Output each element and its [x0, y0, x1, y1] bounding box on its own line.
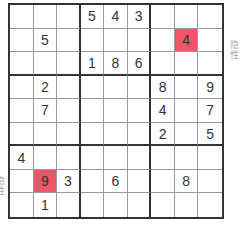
sudoku-cell[interactable] [175, 52, 199, 76]
sudoku-cell[interactable] [57, 76, 81, 100]
sudoku-cell[interactable] [198, 170, 222, 194]
sudoku-cell[interactable]: 1 [34, 193, 58, 217]
sudoku-cell[interactable]: 8 [104, 52, 128, 76]
sudoku-cell[interactable] [104, 99, 128, 123]
sudoku-cell[interactable] [34, 123, 58, 147]
sudoku-cell[interactable] [151, 52, 175, 76]
sudoku-cell[interactable] [198, 29, 222, 53]
sudoku-cell[interactable] [128, 193, 152, 217]
sudoku-cell[interactable] [104, 29, 128, 53]
sudoku-cell[interactable] [198, 146, 222, 170]
sudoku-cell[interactable]: 7 [34, 99, 58, 123]
sudoku-cell[interactable] [10, 193, 34, 217]
sudoku-cell[interactable] [104, 146, 128, 170]
sudoku-cell[interactable] [34, 146, 58, 170]
sudoku-cell[interactable] [57, 99, 81, 123]
sudoku-cell[interactable] [81, 193, 105, 217]
sudoku-cell[interactable] [151, 170, 175, 194]
sudoku-cell[interactable] [175, 99, 199, 123]
sudoku-grid: 5435418628974725493681 [8, 3, 224, 219]
sudoku-cell[interactable] [198, 193, 222, 217]
sudoku-cell[interactable]: 4 [10, 146, 34, 170]
sudoku-cell[interactable]: 9 [34, 170, 58, 194]
sudoku-cell[interactable]: 5 [34, 29, 58, 53]
sudoku-cell[interactable] [175, 5, 199, 29]
sudoku-cell[interactable]: 1 [81, 52, 105, 76]
sudoku-cell[interactable]: 3 [57, 170, 81, 194]
sudoku-cell[interactable] [57, 193, 81, 217]
sudoku-cell[interactable] [57, 29, 81, 53]
sudoku-cell[interactable] [10, 29, 34, 53]
hidden-label-right: 隐性 [229, 40, 239, 60]
sudoku-cell[interactable]: 5 [198, 123, 222, 147]
sudoku-cell[interactable] [81, 76, 105, 100]
sudoku-cell[interactable] [104, 193, 128, 217]
sudoku-cell[interactable] [128, 170, 152, 194]
sudoku-cell[interactable]: 4 [151, 99, 175, 123]
sudoku-cell[interactable] [81, 29, 105, 53]
sudoku-cell[interactable] [151, 5, 175, 29]
sudoku-cell[interactable]: 8 [175, 170, 199, 194]
sudoku-cell[interactable] [34, 52, 58, 76]
sudoku-cell[interactable] [10, 5, 34, 29]
sudoku-cell[interactable] [151, 29, 175, 53]
sudoku-cell[interactable]: 3 [128, 5, 152, 29]
sudoku-cell[interactable] [10, 52, 34, 76]
sudoku-cell[interactable]: 6 [104, 170, 128, 194]
sudoku-cell[interactable] [81, 123, 105, 147]
sudoku-cell[interactable] [10, 76, 34, 100]
sudoku-cell[interactable]: 4 [175, 29, 199, 53]
hidden-label-left: 隐性 [0, 176, 5, 196]
sudoku-cell[interactable] [151, 146, 175, 170]
sudoku-cell[interactable]: 9 [198, 76, 222, 100]
sudoku-cell[interactable] [81, 146, 105, 170]
sudoku-cell[interactable] [151, 193, 175, 217]
sudoku-cell[interactable] [104, 123, 128, 147]
sudoku-cell[interactable]: 7 [198, 99, 222, 123]
sudoku-cell[interactable] [175, 193, 199, 217]
sudoku-cell[interactable]: 6 [128, 52, 152, 76]
sudoku-cell[interactable] [128, 29, 152, 53]
sudoku-cell[interactable] [10, 123, 34, 147]
sudoku-cell[interactable]: 5 [81, 5, 105, 29]
sudoku-cell[interactable] [198, 52, 222, 76]
sudoku-cell[interactable] [81, 170, 105, 194]
sudoku-cell[interactable] [10, 170, 34, 194]
sudoku-cell[interactable] [128, 99, 152, 123]
sudoku-cell[interactable] [175, 123, 199, 147]
sudoku-cell[interactable] [81, 99, 105, 123]
sudoku-cell[interactable] [57, 146, 81, 170]
sudoku-cell[interactable] [57, 52, 81, 76]
sudoku-cell[interactable] [175, 146, 199, 170]
sudoku-cell[interactable]: 2 [151, 123, 175, 147]
sudoku-cell[interactable] [175, 76, 199, 100]
sudoku-cell[interactable] [128, 76, 152, 100]
sudoku-cell[interactable]: 2 [34, 76, 58, 100]
sudoku-cell[interactable] [10, 99, 34, 123]
sudoku-cell[interactable] [128, 123, 152, 147]
sudoku-cell[interactable]: 8 [151, 76, 175, 100]
sudoku-cell[interactable] [128, 146, 152, 170]
sudoku-cell[interactable] [57, 123, 81, 147]
sudoku-cell[interactable] [198, 5, 222, 29]
sudoku-cell[interactable] [104, 76, 128, 100]
sudoku-cell[interactable] [34, 5, 58, 29]
sudoku-cell[interactable] [57, 5, 81, 29]
sudoku-cell[interactable]: 4 [104, 5, 128, 29]
